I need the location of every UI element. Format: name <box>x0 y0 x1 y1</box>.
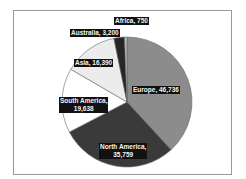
label-africa: Africa, 750 <box>114 17 149 25</box>
label-africa-text: Africa, 750 <box>115 17 148 24</box>
label-asia: Asia, 16,390 <box>74 59 113 67</box>
label-australia: Australia, 3,200 <box>70 29 120 37</box>
label-europe: Europe, 46,736 <box>132 86 180 94</box>
label-south-america-value: 19,638 <box>60 105 107 113</box>
label-south-america: South America, 19,638 <box>59 97 108 113</box>
label-south-america-name: South America, <box>60 97 107 105</box>
label-asia-text: Asia, 16,390 <box>75 59 112 66</box>
label-europe-text: Europe, 46,736 <box>133 86 179 93</box>
label-north-america-value: 35,759 <box>100 151 146 159</box>
label-north-america-name: North America, <box>100 143 146 151</box>
label-north-america: North America, 35,759 <box>99 143 147 159</box>
label-australia-text: Australia, 3,200 <box>71 29 119 36</box>
